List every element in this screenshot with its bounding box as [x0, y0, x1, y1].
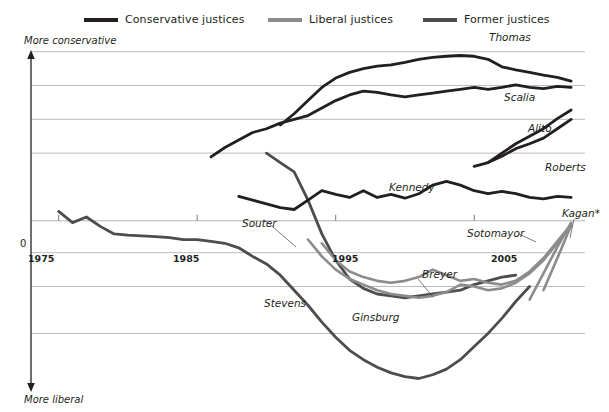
series-line-souter: [266, 153, 515, 298]
y-axis-bottom-caption: More liberal: [24, 394, 83, 405]
series-label-breyer: Breyer: [422, 268, 457, 280]
series-lines: [59, 56, 571, 379]
chart-root: Conservative justices Liberal justices F…: [0, 0, 609, 412]
series-label-souter: Souter: [242, 217, 277, 229]
series-label-kennedy: Kennedy: [389, 181, 435, 193]
series-label-kagan: Kagan*: [562, 207, 600, 219]
series-label-ginsburg: Ginsburg: [352, 311, 399, 323]
series-line-kagan: [543, 225, 571, 290]
label-leader-lines: [266, 219, 574, 297]
series-line-sotomayor: [530, 223, 572, 300]
series-label-sotomayor: Sotomayor: [467, 227, 524, 239]
chart-plot-area: [0, 0, 609, 412]
series-line-stevens: [59, 211, 530, 378]
x-tick-1995: 1995: [332, 253, 358, 264]
x-tick-1975: 1975: [28, 253, 54, 264]
y-axis-top-caption: More conservative: [24, 35, 116, 46]
zero-axis-label: 0: [20, 238, 26, 249]
series-label-stevens: Stevens: [264, 297, 306, 309]
series-label-thomas: Thomas: [489, 31, 531, 43]
series-label-scalia: Scalia: [504, 91, 535, 103]
x-tick-2005: 2005: [491, 253, 517, 264]
x-tick-1985: 1985: [173, 253, 199, 264]
series-line-roberts: [474, 119, 571, 166]
series-line-alito: [488, 110, 571, 163]
series-label-alito: Alito: [528, 122, 552, 134]
series-label-roberts: Roberts: [545, 161, 586, 173]
